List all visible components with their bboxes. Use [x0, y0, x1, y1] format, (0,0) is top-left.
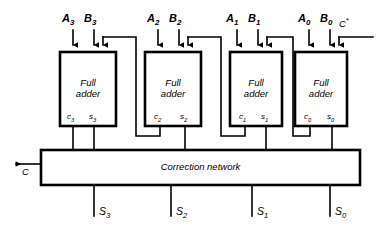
pin-label-c2: c2: [154, 113, 161, 123]
input-label-a2: A2: [147, 13, 159, 27]
pin-label-s2: s2: [180, 113, 187, 123]
adder-caption-1: Fulladder: [230, 78, 282, 98]
adder-caption-0: Fulladder: [295, 78, 347, 98]
adder-caption-3: Fulladder: [60, 78, 116, 98]
sum-output-label-s2: S2: [176, 206, 187, 220]
input-label-b3: B3: [84, 13, 96, 27]
input-label-b2: B2: [169, 13, 181, 27]
pin-label-s1: s1: [261, 113, 268, 123]
pin-label-c3: c3: [67, 113, 74, 123]
sum-output-label-s3: S3: [99, 206, 110, 220]
pin-label-s0: s0: [327, 113, 334, 123]
input-label-b1: B1: [248, 13, 260, 27]
adder-caption-2: Fulladder: [145, 78, 201, 98]
carry-in-label-cstar: C*: [339, 17, 349, 29]
input-label-a0: A0: [298, 13, 310, 27]
pin-label-s3: s3: [89, 113, 96, 123]
correction-network-label: Correction network: [41, 162, 360, 172]
carry-out-label: C: [22, 167, 29, 177]
sum-output-label-s1: S1: [257, 206, 268, 220]
carry-save-adder-diagram: A3 B3 A2 B2 A1 B1 A0 B0 C* Fulladder Ful…: [0, 0, 378, 228]
sum-output-label-s0: S0: [335, 206, 346, 220]
input-label-a3: A3: [62, 13, 74, 27]
diagram-canvas: [0, 0, 378, 228]
pin-label-c0: c0: [304, 113, 311, 123]
pin-label-c1: c1: [239, 113, 246, 123]
input-label-a1: A1: [226, 13, 238, 27]
input-label-b0: B0: [320, 13, 332, 27]
